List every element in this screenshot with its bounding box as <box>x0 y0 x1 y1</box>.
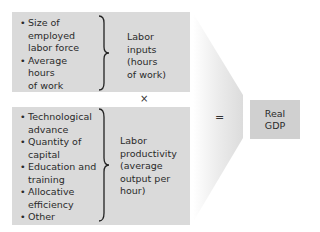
multiply-symbol: × <box>140 93 148 104</box>
real-gdp-box: Real GDP <box>250 100 300 139</box>
labor-inputs-list: Size of employed labor force Average hou… <box>20 17 79 92</box>
list-item: Size of employed labor force <box>20 17 79 55</box>
labor-inputs-label: Labor inputs (hours of work) <box>127 31 166 81</box>
result-label: Real <box>265 108 285 119</box>
brace-icon <box>98 15 110 91</box>
labor-productivity-list: Technological advance Quantity of capita… <box>20 111 96 224</box>
brace-icon <box>98 108 110 222</box>
list-item: Average hours of work <box>20 55 79 93</box>
list-item: Other <box>20 211 96 224</box>
list-item: Education and training <box>20 161 96 186</box>
labor-productivity-label: Labor productivity (average output per h… <box>120 135 177 198</box>
result-label: GDP <box>265 120 285 131</box>
list-item: Technological advance <box>20 111 96 136</box>
list-item: Quantity of capital <box>20 136 96 161</box>
equals-symbol: = <box>215 111 224 124</box>
list-item: Allocative efficiency <box>20 186 96 211</box>
